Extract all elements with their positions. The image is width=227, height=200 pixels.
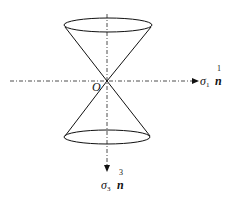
- cone-edge-upper-right: [107, 27, 151, 81]
- n3-superscript: 3: [119, 168, 123, 177]
- n3-vector-label: n: [117, 178, 124, 193]
- origin-label: O: [92, 80, 101, 95]
- sigma1-subscript: 1: [206, 81, 210, 89]
- sigma3-label: σ3: [101, 178, 110, 193]
- sigma1-label: σ1: [200, 74, 209, 89]
- top-cone-base: [64, 18, 152, 32]
- cone-edge-upper-left: [65, 27, 107, 81]
- n1-superscript: 1: [217, 64, 221, 73]
- cone-edge-lower-right: [107, 81, 150, 136]
- n1-vector-label: n: [215, 74, 222, 89]
- horizontal-arrowhead-icon: [192, 78, 199, 84]
- cone-drawing: [0, 0, 227, 200]
- vertical-arrowhead-icon: [104, 165, 110, 172]
- double-cone-diagram: O σ1 n 1 σ3 n 3: [0, 0, 227, 200]
- sigma3-subscript: 3: [107, 185, 111, 193]
